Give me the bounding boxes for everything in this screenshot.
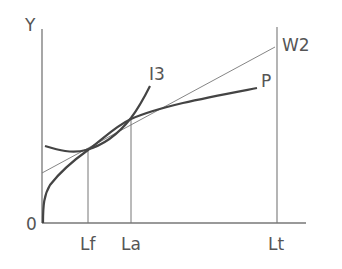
i3-label: I3 [149,64,165,84]
p-label: P [261,71,271,91]
la-label: La [121,234,141,254]
origin-label: 0 [26,214,37,234]
y-axis-label: Y [24,15,36,35]
lf-label: Lf [80,234,96,254]
lt-label: Lt [268,234,284,254]
w2-label: W2 [282,35,310,55]
diagram-canvas: Y 0 Lf La Lt W2 P I3 [0,0,342,269]
